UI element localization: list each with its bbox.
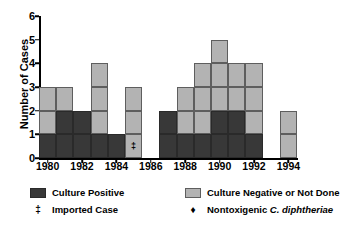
bar-1982	[73, 111, 90, 158]
x-tick-mark-1986	[150, 159, 152, 163]
bar-segment-culture-negative-1983	[91, 111, 108, 135]
bar-segment-culture-negative-1985	[125, 111, 142, 135]
bar-1981	[56, 87, 73, 158]
x-tick-mark-1980	[47, 159, 49, 163]
bar-1983	[91, 63, 108, 158]
bar-segment-culture-positive-1981	[56, 134, 73, 158]
bar-segment-culture-negative-1989	[194, 111, 211, 135]
bar-segment-culture-positive-1987	[159, 111, 176, 135]
x-tick-mark-1984	[116, 159, 118, 163]
x-tick-mark-1994	[288, 159, 290, 163]
bar-segment-culture-negative-1980	[39, 111, 56, 135]
plot-area: 0123456 19801982198419861988199019921994…	[39, 16, 297, 158]
bar-1984	[108, 134, 125, 158]
bar-segment-culture-positive-1991	[228, 111, 245, 135]
bar-segment-culture-negative-1990	[211, 63, 228, 87]
bar-1992	[245, 63, 262, 158]
legend-label-imported-case: Imported Case	[52, 204, 118, 215]
bar-segment-culture-positive-1980	[39, 134, 56, 158]
bar-segment-culture-negative-1992	[245, 111, 262, 135]
bar-segment-culture-positive-1981	[56, 111, 73, 135]
legend-swatch-culture-negative	[185, 188, 201, 198]
bar-1988	[177, 87, 194, 158]
bar-segment-culture-positive-1989	[194, 134, 211, 158]
bar-segment-culture-positive-1982	[73, 111, 90, 135]
bar-segment-culture-negative-1988	[177, 87, 194, 111]
bar-segment-culture-positive-1992	[245, 134, 262, 158]
legend-label-nontoxigenic-species: C. diphtheriae	[270, 204, 333, 215]
bar-segment-culture-negative-1990	[211, 87, 228, 111]
legend-item-culture-negative: Culture Negative or Not Done	[185, 184, 340, 201]
bar-segment-culture-negative-1985	[125, 87, 142, 111]
bar-segment-culture-negative-1992	[245, 87, 262, 111]
bar-segment-culture-negative-1990	[211, 40, 228, 64]
bar-1994	[280, 111, 297, 158]
bar-segment-culture-negative-1991	[228, 87, 245, 111]
legend-swatch-culture-positive	[30, 188, 46, 198]
bar-segment-culture-positive-1982	[73, 134, 90, 158]
bar-segment-culture-positive-1987	[159, 134, 176, 158]
bar-segment-culture-positive-1983	[91, 134, 108, 158]
legend-label-nontoxigenic-plain: Nontoxigenic	[207, 204, 270, 215]
bar-segment-culture-negative-1983	[91, 63, 108, 87]
x-tick-mark-1982	[81, 159, 83, 163]
legend-label-culture-positive: Culture Positive	[52, 187, 124, 198]
legend-item-culture-positive: Culture Positive	[30, 184, 124, 201]
annotation-imported-case-1985: ‡	[125, 142, 142, 151]
bar-segment-culture-negative-1989	[194, 87, 211, 111]
y-tick-mark-5	[35, 39, 39, 41]
bar-1980	[39, 87, 56, 158]
chart-legend: Culture Positive Culture Negative or Not…	[30, 184, 316, 218]
bar-segment-culture-negative-1989	[194, 63, 211, 87]
x-tick-mark-1992	[253, 159, 255, 163]
bar-1987	[159, 111, 176, 158]
legend-label-culture-negative: Culture Negative or Not Done	[207, 187, 340, 198]
x-tick-mark-1990	[219, 159, 221, 163]
bar-segment-culture-negative-1988	[177, 111, 194, 135]
bar-segment-culture-negative-1992	[245, 63, 262, 87]
bar-1989	[194, 63, 211, 158]
legend-label-nontoxigenic: Nontoxigenic C. diphtheriae	[207, 204, 333, 215]
x-tick-mark-1988	[184, 159, 186, 163]
diamond-icon: ♦	[185, 204, 201, 215]
bar-segment-culture-negative-1994	[280, 111, 297, 135]
double-dagger-icon: ‡	[30, 204, 46, 215]
bar-segment-culture-negative-1994	[280, 134, 297, 158]
legend-item-imported-case: ‡ Imported Case	[30, 201, 118, 218]
bar-segment-culture-negative-1991	[228, 63, 245, 87]
bar-segment-culture-positive-1988	[177, 134, 194, 158]
legend-row-series: Culture Positive Culture Negative or Not…	[30, 184, 316, 201]
bar-1985: ‡	[125, 87, 142, 158]
bar-segment-culture-negative-1981	[56, 87, 73, 111]
bar-segment-culture-negative-1980	[39, 87, 56, 111]
bar-1991	[228, 63, 245, 158]
y-tick-mark-6	[35, 15, 39, 17]
bar-segment-culture-positive-1991	[228, 134, 245, 158]
bar-segment-culture-positive-1990	[211, 134, 228, 158]
legend-row-markers: ‡ Imported Case ♦ Nontoxigenic C. diphth…	[30, 201, 316, 218]
y-tick-mark-4	[35, 63, 39, 65]
legend-item-nontoxigenic: ♦ Nontoxigenic C. diphtheriae	[185, 201, 333, 218]
bar-segment-culture-negative-1983	[91, 87, 108, 111]
bar-segment-culture-positive-1990	[211, 111, 228, 135]
bar-1990	[211, 40, 228, 158]
bar-segment-culture-positive-1984	[108, 134, 125, 158]
